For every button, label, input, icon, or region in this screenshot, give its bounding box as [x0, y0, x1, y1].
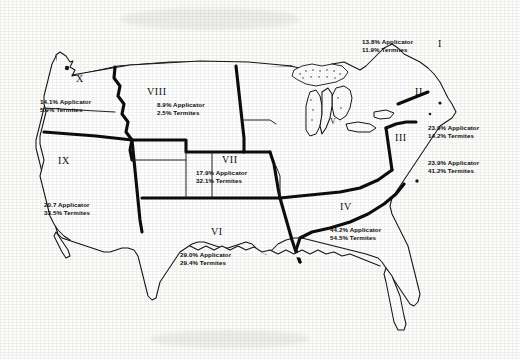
scan-smudge-bottom [150, 330, 310, 348]
region-label-ii: II [415, 86, 423, 97]
region-label-iii: III [395, 132, 407, 143]
region-label-i: I [438, 38, 442, 49]
region-vi-termites: 29.4% Termites [180, 259, 231, 267]
region-label-ix: IX [58, 155, 70, 166]
region-viii-applicator: 8.9% Applicator [157, 101, 205, 109]
region-i-applicator: 13.8% Applicator [362, 38, 413, 46]
region-stats-iii: 23.9% Applicator 41.2% Termites [428, 159, 479, 174]
region-ii-termites: 14.2% Termites [428, 132, 479, 140]
region-label-vii: VII [222, 154, 238, 165]
region-iv-applicator: 44.2% Applicator [330, 226, 381, 234]
us-region-map-figure: I 13.8% Applicator 11.9% Termites II 23.… [0, 0, 520, 359]
region-label-viii: VIII [147, 86, 167, 97]
region-label-v: V [330, 117, 336, 126]
region-stats-i: 13.8% Applicator 11.9% Termites [362, 38, 413, 53]
region-label-x: X [76, 73, 84, 84]
region-stats-x: 14.1% Applicator 5.9% Termites [40, 98, 91, 113]
region-iii-termites: 41.2% Termites [428, 167, 479, 175]
region-stats-vii: 17.9% Applicator 32.1% Termites [196, 169, 247, 184]
region-vii-termites: 32.1% Termites [196, 177, 247, 185]
region-vii-applicator: 17.9% Applicator [196, 169, 247, 177]
region-viii-termites: 2.5% Termites [157, 109, 205, 117]
region-ii-applicator: 23.9% Applicator [428, 124, 479, 132]
region-x-termites: 5.9% Termites [40, 106, 91, 114]
map-label-layer: I 13.8% Applicator 11.9% Termites II 23.… [0, 0, 520, 359]
region-stats-ii: 23.9% Applicator 14.2% Termites [428, 124, 479, 139]
region-stats-ix: 20.7 Applicator 33.5% Termites [44, 201, 90, 216]
region-iii-applicator: 23.9% Applicator [428, 159, 479, 167]
region-ix-termites: 33.5% Termites [44, 209, 90, 217]
region-label-vi: VI [211, 226, 223, 237]
region-label-iv: IV [340, 201, 352, 212]
region-i-termites: 11.9% Termites [362, 46, 413, 54]
region-x-applicator: 14.1% Applicator [40, 98, 91, 106]
region-stats-iv: 44.2% Applicator 54.5% Termites [330, 226, 381, 241]
region-ix-applicator: 20.7 Applicator [44, 201, 90, 209]
region-stats-vi: 29.0% Applicator 29.4% Termites [180, 251, 231, 266]
region-iv-termites: 54.5% Termites [330, 234, 381, 242]
region-vi-applicator: 29.0% Applicator [180, 251, 231, 259]
scan-smudge-top [120, 8, 300, 30]
region-stats-viii: 8.9% Applicator 2.5% Termites [157, 101, 205, 116]
